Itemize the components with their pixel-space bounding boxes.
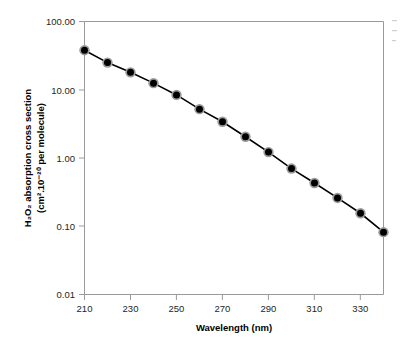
data-point-core (219, 118, 226, 125)
y-tick-label-1: 10.00 (51, 85, 75, 96)
data-point (263, 147, 273, 157)
data-point (102, 57, 112, 67)
data-point-core (196, 106, 203, 113)
data-point-core (265, 149, 272, 156)
x-axis-title: Wavelength (nm) (196, 322, 272, 333)
x-tick-label-4: 290 (260, 303, 276, 314)
y-axis-title-line1: H₂O₂ absorption cross section (22, 89, 33, 227)
y-tick-label-3: 0.10 (57, 221, 76, 232)
data-point (355, 208, 365, 218)
data-point-core (357, 210, 364, 217)
data-point-core (311, 180, 318, 187)
data-point-core (150, 80, 157, 87)
data-point-core (288, 165, 295, 172)
data-point (194, 104, 204, 114)
x-tick-label-6: 330 (352, 303, 368, 314)
data-point-core (173, 91, 180, 98)
data-point (332, 193, 342, 203)
data-point-core (127, 69, 134, 76)
x-tick-label-5: 310 (306, 303, 322, 314)
data-point-core (104, 59, 111, 66)
x-tick-label-1: 230 (123, 303, 139, 314)
data-point (148, 78, 158, 88)
data-point (378, 227, 388, 237)
data-point-core (242, 133, 249, 140)
y-axis-title-line2: (cm².10⁻²⁰ per molecule) (35, 103, 46, 213)
data-point-core (81, 47, 88, 54)
data-point (217, 117, 227, 127)
data-point (240, 132, 250, 142)
y-tick-label-0: 100.00 (46, 16, 75, 27)
x-tick-label-3: 270 (214, 303, 230, 314)
x-tick-label-2: 250 (168, 303, 184, 314)
chart-figure: 100.00 10.00 1.00 0.10 0.01 210 230 250 … (0, 0, 401, 350)
data-point-core (334, 194, 341, 201)
x-tick-label-0: 210 (77, 303, 93, 314)
data-point (171, 90, 181, 100)
data-point (286, 163, 296, 173)
data-point (125, 67, 135, 77)
data-point (309, 178, 319, 188)
y-tick-label-4: 0.01 (57, 289, 76, 300)
data-point-core (380, 229, 387, 236)
data-point (79, 45, 89, 55)
y-tick-label-2: 1.00 (57, 153, 76, 164)
